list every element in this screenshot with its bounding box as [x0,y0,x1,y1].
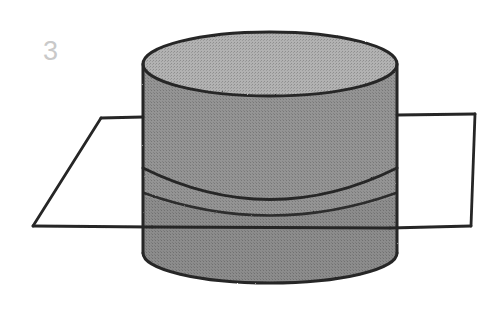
cylinder-solid [143,32,397,283]
plane-back-edge-left [101,117,143,118]
plane-back-edge-right [397,114,475,115]
plane-front-edge-left [33,226,152,227]
figure-number-label: 3 [43,38,58,65]
plane-front-edge-through-cylinder [152,227,390,228]
figure-canvas: 3 [0,0,504,312]
cylinder-plane-diagram [0,0,504,312]
plane-front-edge-right [390,226,471,228]
